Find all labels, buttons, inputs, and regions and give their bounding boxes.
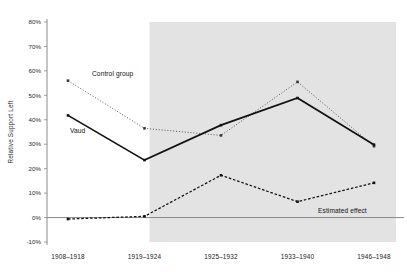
y-tick-label: -10% <box>27 238 42 245</box>
series-label-control-group: Control group <box>92 70 133 78</box>
data-point-marker <box>67 79 70 82</box>
data-point-marker <box>220 134 223 137</box>
y-tick-label: 60% <box>29 67 42 74</box>
chart-container: -10%0%10%20%30%40%50%60%70%80% 1908–1918… <box>0 0 407 279</box>
data-point-marker <box>373 182 376 185</box>
data-point-marker <box>67 114 70 117</box>
data-point-marker <box>220 124 223 127</box>
y-tick-label: 0% <box>32 214 41 221</box>
x-tick-label: 1925–1932 <box>204 253 238 260</box>
x-tick-label: 1933–1940 <box>281 253 315 260</box>
data-point-marker <box>296 200 299 203</box>
y-tick-label: 50% <box>29 92 42 99</box>
y-axis-title: Relative Support Left <box>7 100 15 163</box>
y-tick-label: 10% <box>29 189 42 196</box>
data-point-marker <box>143 159 146 162</box>
y-tick-label: 40% <box>29 116 42 123</box>
data-point-marker <box>143 127 146 130</box>
y-tick-label: 30% <box>29 140 42 147</box>
line-chart: -10%0%10%20%30%40%50%60%70%80% 1908–1918… <box>0 0 407 279</box>
x-tick-label: 1919–1924 <box>128 253 162 260</box>
y-tick-label: 80% <box>29 18 42 25</box>
data-point-marker <box>373 143 376 146</box>
series-label-vaud: Vaud <box>70 127 86 134</box>
data-point-marker <box>67 218 70 221</box>
data-point-marker <box>143 215 146 218</box>
data-point-marker <box>220 174 223 177</box>
data-point-marker <box>296 97 299 100</box>
y-tick-label: 70% <box>29 43 42 50</box>
x-tick-label: 1946–1948 <box>357 253 391 260</box>
series-label-estimated-effect: Estimated effect <box>318 207 367 214</box>
y-tick-label: 20% <box>29 165 42 172</box>
x-tick-label: 1908–1918 <box>51 253 85 260</box>
data-point-marker <box>296 81 299 84</box>
